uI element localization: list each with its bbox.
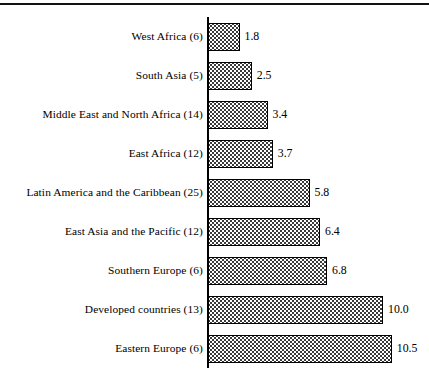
bar-value-label: 3.4: [273, 95, 288, 134]
bar-category-label: Developed countries (13): [85, 290, 203, 329]
bar-value-label: 6.4: [325, 212, 340, 251]
bar: [208, 23, 240, 51]
bar-row: Developed countries (13)10.0: [0, 290, 429, 329]
bar: [208, 257, 327, 285]
bar-row: Middle East and North Africa (14)3.4: [0, 95, 429, 134]
bar-category-label: Eastern Europe (6): [115, 329, 203, 368]
bar-value-label: 1.8: [245, 17, 260, 56]
bar-row: Latin America and the Caribbean (25)5.8: [0, 173, 429, 212]
bar: [208, 62, 252, 90]
bar-row: East Asia and the Pacific (12)6.4: [0, 212, 429, 251]
bar: [208, 179, 310, 207]
bar-category-label: West Africa (6): [132, 17, 203, 56]
bar-row: East Africa (12)3.7: [0, 134, 429, 173]
bar: [208, 218, 320, 246]
bar-category-label: South Asia (5): [136, 56, 203, 95]
bar-category-label: Southern Europe (6): [108, 251, 203, 290]
bar-value-label: 3.7: [278, 134, 293, 173]
bar-category-label: Latin America and the Caribbean (25): [26, 173, 203, 212]
bar-row: Southern Europe (6)6.8: [0, 251, 429, 290]
bar-category-label: East Africa (12): [129, 134, 203, 173]
bar-value-label: 6.8: [332, 251, 347, 290]
bar-row: Eastern Europe (6)10.5: [0, 329, 429, 368]
bar-row: West Africa (6)1.8: [0, 17, 429, 56]
bar: [208, 296, 383, 324]
bar: [208, 101, 268, 129]
bar-row: South Asia (5)2.5: [0, 56, 429, 95]
bar: [208, 335, 392, 363]
bar-value-label: 10.5: [397, 329, 418, 368]
bar-category-label: East Asia and the Pacific (12): [65, 212, 203, 251]
bar-value-label: 10.0: [388, 290, 409, 329]
bar-category-label: Middle East and North Africa (14): [42, 95, 203, 134]
bar: [208, 140, 273, 168]
bar-chart: West Africa (6)1.8South Asia (5)2.5Middl…: [0, 0, 429, 380]
bar-value-label: 5.8: [315, 173, 330, 212]
bar-value-label: 2.5: [257, 56, 272, 95]
